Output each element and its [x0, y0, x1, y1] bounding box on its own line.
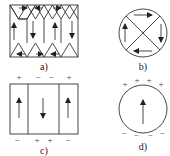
sign: − — [133, 130, 138, 140]
sign: + — [34, 135, 39, 145]
sign: + — [66, 72, 71, 82]
sign: + — [146, 75, 151, 85]
sign: − — [121, 128, 126, 138]
panel-b: b) — [119, 9, 167, 73]
sign: + — [16, 72, 21, 82]
sign: + — [134, 75, 139, 85]
panel-c: + − − + − + + − c) — [10, 72, 78, 156]
sign: + — [158, 79, 163, 89]
panel-a: a) — [10, 5, 78, 73]
sign: + — [122, 79, 127, 89]
sign: + — [47, 135, 52, 145]
sign: − — [65, 135, 70, 145]
panel-b-label: b) — [139, 61, 147, 73]
panel-d-label: d) — [139, 141, 147, 153]
sign: − — [35, 72, 40, 82]
sign: − — [14, 135, 19, 145]
panel-c-label: c) — [40, 145, 48, 156]
sign: − — [147, 130, 152, 140]
magnetic-domains-diagram: a) b) + − − + − + + − c) + + + + − — [0, 0, 170, 156]
sign: − — [48, 72, 53, 82]
sign: − — [159, 128, 164, 138]
panel-a-label: a) — [40, 61, 48, 73]
panel-d: + + + + − − − − d) — [119, 75, 167, 153]
